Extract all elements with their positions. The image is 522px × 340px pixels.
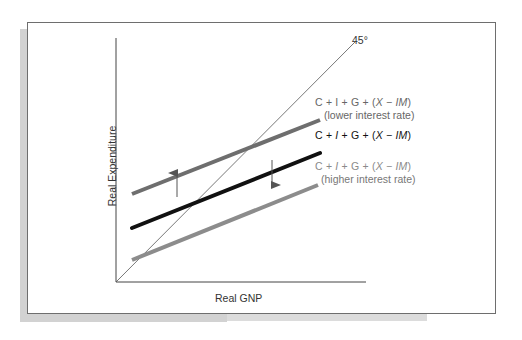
eq-part-italic: X [376, 160, 383, 172]
equation-label-lower-interest-rate: C + I + G + (X − IM) [315, 96, 411, 108]
forty-five-degree-label: 45° [352, 34, 368, 46]
expenditure-line-higher-interest-rate [132, 185, 318, 260]
caption-higher-interest-rate: (higher interest rate) [321, 173, 416, 185]
eq-part: − [383, 129, 396, 141]
eq-part: C + I + G + ( [315, 96, 376, 108]
equation-label-baseline: C + I + G + (X − IM) [315, 129, 411, 141]
eq-part: + G + ( [338, 160, 375, 172]
eq-part: C + [315, 160, 335, 172]
eq-part-italic: X [376, 96, 383, 108]
eq-part-italic: IM [395, 160, 407, 172]
x-axis-label: Real GNP [215, 292, 262, 304]
caption-lower-interest-rate: (lower interest rate) [324, 109, 414, 121]
eq-part-italic: IM [395, 96, 407, 108]
eq-part-italic: X [376, 129, 383, 141]
eq-part-italic: IM [395, 129, 407, 141]
eq-part: ) [408, 96, 412, 108]
diagram-canvas [0, 0, 522, 340]
eq-part: + G + ( [338, 129, 375, 141]
expenditure-line-baseline [132, 153, 320, 228]
equation-label-higher-interest-rate: C + I + G + (X − IM) [315, 160, 411, 172]
eq-part: − [383, 160, 396, 172]
eq-part: C + [315, 129, 335, 141]
eq-part: − [383, 96, 396, 108]
expenditure-line-lower-interest-rate [132, 120, 320, 194]
y-axis-label: Real Expenditure [106, 106, 118, 226]
eq-part: ) [408, 129, 412, 141]
eq-part: ) [408, 160, 412, 172]
